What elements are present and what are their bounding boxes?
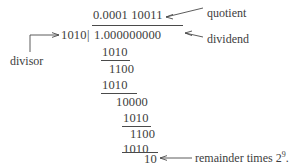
remainder-arrow-icon (160, 156, 192, 161)
step-underline (101, 60, 130, 61)
step-row: 10000 (116, 96, 148, 109)
step-row: 1010 (102, 79, 128, 92)
remainder-value: 10 (144, 153, 157, 166)
step-row: 1010 (102, 46, 128, 59)
quotient-arrow-icon (166, 8, 203, 19)
divisor-value: 1010 (61, 29, 87, 42)
binary-long-division-figure: 0.0001 10011 1010 | 1.000000000 1010 110… (0, 0, 299, 168)
remainder-label: remainder times 29. (195, 152, 289, 165)
quotient-label: quotient (207, 7, 246, 20)
step-row: 1010 (123, 112, 149, 125)
divisor-arrow-icon (30, 33, 59, 52)
remainder-label-text: remainder times 2 (195, 151, 282, 165)
dividend-value: 1.000000000 (94, 29, 161, 42)
division-vinculum (92, 25, 183, 26)
step-underline (101, 93, 137, 94)
step-row: 1100 (109, 63, 134, 76)
dividend-arrow-icon (185, 31, 203, 37)
remainder-period: . (286, 151, 289, 165)
division-separator: | (87, 29, 90, 42)
dividend-label: dividend (207, 33, 249, 46)
step-row: 1100 (130, 128, 155, 141)
quotient-value: 0.0001 10011 (93, 9, 163, 22)
divisor-label: divisor (10, 55, 43, 68)
